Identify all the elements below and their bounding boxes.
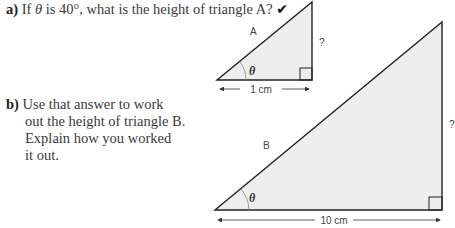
triangles-diagram: θ A ? 1 cm θ B ? 10 cm	[0, 0, 455, 228]
triangle-a: θ A ? 1 cm	[217, 2, 325, 95]
triangle-a-name: A	[250, 26, 257, 37]
triangle-a-base: 1 cm	[250, 84, 272, 95]
triangle-b-height: ?	[449, 119, 455, 130]
triangle-b-name: B	[263, 140, 270, 151]
triangle-b-angle: θ	[249, 191, 256, 205]
triangle-a-height: ?	[319, 37, 325, 48]
triangle-b-base: 10 cm	[320, 215, 347, 226]
triangle-a-angle: θ	[249, 64, 256, 78]
